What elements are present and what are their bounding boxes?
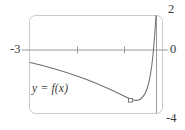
x-axis-min-label: -3 [10,43,20,56]
minimum-point-marker [129,99,133,103]
plot-canvas [0,0,185,130]
x-axis-max-label: 0 [170,43,176,56]
y-axis-min-label: -4 [166,112,176,125]
curve-equation-label: y = f(x) [32,82,68,94]
y-axis-max-label: 2 [168,3,174,16]
plot-frame [30,16,163,114]
function-graph-figure: -3 2 0 -4 y = f(x) [0,0,185,130]
